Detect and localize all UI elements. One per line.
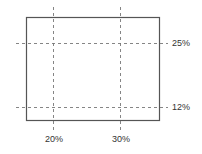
label-20-percent: 20% bbox=[45, 134, 63, 144]
label-12-percent: 12% bbox=[172, 102, 190, 112]
frame-rectangle bbox=[27, 18, 160, 121]
label-30-percent: 30% bbox=[112, 134, 130, 144]
label-25-percent: 25% bbox=[172, 38, 190, 48]
diagram-canvas bbox=[0, 0, 202, 154]
